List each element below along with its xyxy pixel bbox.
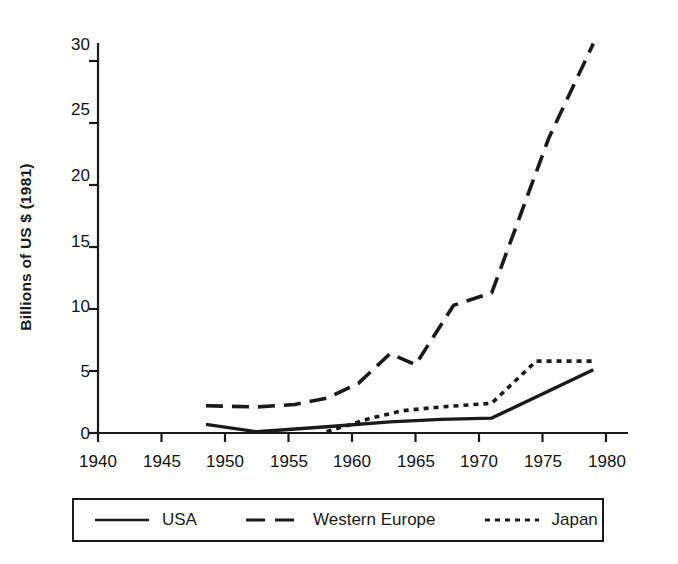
- legend-item-western-europe: Western Europe: [245, 500, 436, 540]
- plot-area: [0, 0, 678, 564]
- legend-swatch-solid-icon: [94, 513, 150, 527]
- series-line-western-europe: [206, 44, 593, 407]
- line-chart: Billions of US $ (1981) 30 25 20 15 10 5…: [0, 0, 678, 564]
- series-line-usa: [206, 370, 593, 432]
- legend-swatch-dotted-icon: [484, 513, 540, 527]
- legend-label-western-europe: Western Europe: [313, 510, 436, 530]
- legend-item-usa: USA: [94, 500, 197, 540]
- series-line-japan: [327, 361, 594, 432]
- legend-item-japan: Japan: [484, 500, 598, 540]
- y-axis-ticks: [89, 61, 98, 433]
- legend-swatch-dashed-icon: [245, 513, 301, 527]
- data-series-layer: [206, 44, 593, 432]
- legend-label-usa: USA: [162, 510, 197, 530]
- legend: USA Western Europe Japan: [72, 498, 604, 542]
- legend-label-japan: Japan: [552, 510, 598, 530]
- x-axis-ticks: [98, 433, 606, 442]
- axes-lines: [98, 43, 628, 433]
